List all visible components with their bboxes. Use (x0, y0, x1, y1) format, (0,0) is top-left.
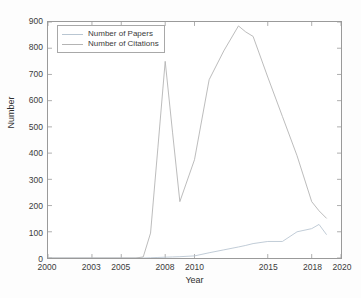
legend-label-citations: Number of Citations (88, 40, 159, 48)
y-axis-label: Number (7, 83, 16, 143)
y-tick-label: 800 (3, 43, 43, 52)
y-tick-label: 900 (3, 17, 43, 26)
x-tick-label: 2005 (111, 263, 130, 272)
legend-line-swatch-citations (62, 44, 83, 45)
figure-canvas: 0100200300400500600700800900 Number 2000… (0, 0, 361, 298)
chart-legend: Number of Papers Number of Citations (57, 25, 165, 53)
y-tick-label: 100 (3, 228, 43, 237)
y-tick-label: 400 (3, 149, 43, 158)
series-line-papers (48, 224, 326, 258)
legend-line-swatch-papers (62, 34, 83, 35)
plot-svg (48, 22, 341, 258)
x-axis-label: Year (47, 276, 342, 285)
data-series-group (48, 26, 326, 258)
y-tick-label: 300 (3, 175, 43, 184)
x-tick-label: 2015 (259, 263, 278, 272)
x-tick-label: 2010 (185, 263, 204, 272)
x-tick-label: 2000 (38, 263, 57, 272)
legend-item-papers: Number of Papers (62, 29, 159, 39)
y-tick-label: 700 (3, 70, 43, 79)
x-tick-label: 2008 (156, 263, 175, 272)
legend-label-papers: Number of Papers (88, 30, 153, 38)
axis-tick-marks (48, 22, 341, 258)
y-tick-label: 200 (3, 202, 43, 211)
legend-item-citations: Number of Citations (62, 39, 159, 49)
x-tick-label: 2018 (303, 263, 322, 272)
x-tick-label: 2020 (333, 263, 352, 272)
series-line-citations (48, 26, 326, 258)
plot-area (47, 21, 342, 259)
x-tick-label: 2003 (82, 263, 101, 272)
